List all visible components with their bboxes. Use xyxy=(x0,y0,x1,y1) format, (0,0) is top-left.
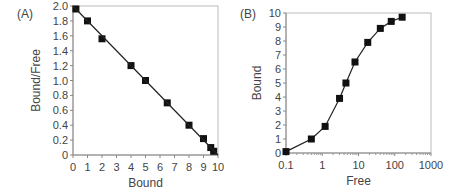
data-point xyxy=(351,59,358,66)
x-tick-label: 0.1 xyxy=(278,159,293,171)
data-point xyxy=(399,14,406,21)
x-tick-label: 5 xyxy=(142,161,148,173)
plot-frame xyxy=(286,13,431,153)
y-tick-label: 7 xyxy=(275,49,281,61)
y-tick-label: 0 xyxy=(275,147,281,159)
y-tick-label: 0.4 xyxy=(53,119,68,131)
x-tick-label: 10 xyxy=(352,159,364,171)
x-tick-label: 6 xyxy=(157,161,163,173)
data-point xyxy=(364,39,371,46)
chart-a-svg: (A)00.20.40.60.81.01.21.41.61.82.0012345… xyxy=(0,0,228,196)
panel-label: (B) xyxy=(240,7,256,21)
data-point xyxy=(377,25,384,32)
y-tick-label: 1.4 xyxy=(53,45,68,57)
y-tick-label: 1 xyxy=(275,133,281,145)
x-tick-label: 4 xyxy=(128,161,134,173)
x-tick-label: 2 xyxy=(99,161,105,173)
y-axis-label: Bound/Free xyxy=(29,49,43,112)
y-tick-label: 2.0 xyxy=(53,0,68,12)
y-tick-label: 10 xyxy=(269,7,281,19)
x-tick-label: 9 xyxy=(200,161,206,173)
data-point xyxy=(200,135,207,142)
data-point xyxy=(388,18,395,25)
y-tick-label: 1.0 xyxy=(53,75,68,87)
chart-b: (B)0123456789100.11101001000FreeBound xyxy=(228,0,457,196)
x-tick-label: 10 xyxy=(212,161,224,173)
data-point xyxy=(322,123,329,130)
x-axis-label: Bound xyxy=(128,176,163,190)
chart-a: (A)00.20.40.60.81.01.21.41.61.82.0012345… xyxy=(0,0,228,196)
y-tick-label: 1.6 xyxy=(53,30,68,42)
y-tick-label: 6 xyxy=(275,63,281,75)
y-tick-label: 1.2 xyxy=(53,60,68,72)
x-tick-label: 7 xyxy=(171,161,177,173)
x-tick-label: 1 xyxy=(84,161,90,173)
panel-label: (A) xyxy=(17,7,33,21)
data-point xyxy=(283,148,290,155)
y-tick-label: 5 xyxy=(275,77,281,89)
y-tick-label: 0 xyxy=(62,149,68,161)
x-tick-label: 1000 xyxy=(419,159,443,171)
x-tick-label: 3 xyxy=(113,161,119,173)
fit-line xyxy=(73,6,218,155)
y-tick-label: 0.8 xyxy=(53,89,68,101)
data-point xyxy=(342,80,349,87)
x-tick-label: 8 xyxy=(186,161,192,173)
x-tick-label: 100 xyxy=(386,159,404,171)
chart-b-svg: (B)0123456789100.11101001000FreeBound xyxy=(228,0,457,196)
y-tick-label: 0.6 xyxy=(53,104,68,116)
y-axis-label: Bound xyxy=(250,66,264,101)
y-tick-label: 9 xyxy=(275,21,281,33)
y-tick-label: 4 xyxy=(275,91,281,103)
y-tick-label: 0.2 xyxy=(53,134,68,146)
y-tick-label: 2 xyxy=(275,119,281,131)
y-tick-label: 1.8 xyxy=(53,15,68,27)
x-axis-label: Free xyxy=(346,174,371,188)
data-point xyxy=(308,136,315,143)
y-tick-label: 8 xyxy=(275,35,281,47)
x-tick-label: 0 xyxy=(70,161,76,173)
data-point xyxy=(336,95,343,102)
x-tick-label: 1 xyxy=(319,159,325,171)
y-tick-label: 3 xyxy=(275,105,281,117)
